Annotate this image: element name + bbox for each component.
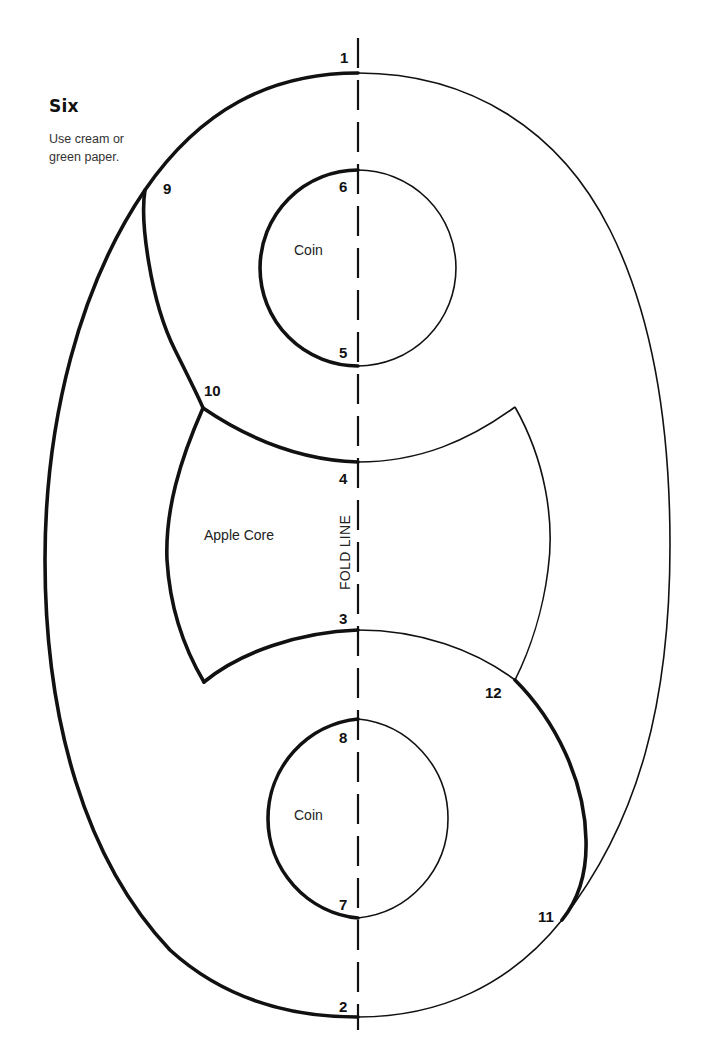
outer-oval-right xyxy=(358,73,670,1017)
point-label-7: 7 xyxy=(339,896,347,913)
apple-core-top-right xyxy=(358,407,515,462)
point-label-4: 4 xyxy=(339,470,348,487)
apple-core-right-side xyxy=(515,407,550,680)
point-label-1: 1 xyxy=(340,49,348,66)
six-inner-loop-left xyxy=(144,190,358,462)
coin-bottom-label: Coin xyxy=(294,807,323,823)
fold-line-label: FOLD LINE xyxy=(337,515,353,590)
outer-oval-left xyxy=(45,73,358,1017)
bottom-loop-right-side xyxy=(515,680,586,920)
point-label-8: 8 xyxy=(339,729,347,746)
coin-top-label: Coin xyxy=(294,242,323,258)
coin-bottom-right-half xyxy=(358,719,448,918)
apple-core-bottom-left xyxy=(204,630,358,682)
point-label-10: 10 xyxy=(204,382,221,399)
apple-core-left-side xyxy=(167,408,204,682)
point-label-5: 5 xyxy=(339,344,347,361)
point-label-3: 3 xyxy=(339,610,347,627)
point-label-6: 6 xyxy=(339,178,347,195)
six-template-diagram: 1 6 5 4 3 8 7 2 9 10 12 11 Coin Coin App… xyxy=(0,0,711,1054)
apple-core-label: Apple Core xyxy=(204,527,274,543)
coin-top-left-half xyxy=(260,170,358,366)
point-label-11: 11 xyxy=(538,908,554,925)
coin-top-right-half xyxy=(358,170,456,366)
point-label-12: 12 xyxy=(485,684,502,701)
point-label-9: 9 xyxy=(163,180,171,197)
bottom-loop-top-right xyxy=(358,630,515,680)
point-label-2: 2 xyxy=(339,998,347,1015)
